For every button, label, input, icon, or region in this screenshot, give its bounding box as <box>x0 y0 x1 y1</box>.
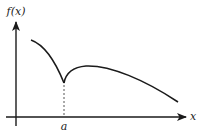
curve-right-branch <box>64 66 178 102</box>
curve-left-branch <box>31 40 64 83</box>
y-axis-label: f(x) <box>6 5 26 18</box>
cusp-label: a <box>61 120 68 131</box>
function-graph: f(x) x a <box>0 0 202 131</box>
x-axis-label: x <box>190 110 197 123</box>
